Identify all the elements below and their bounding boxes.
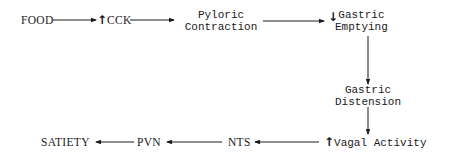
node-vagal-label: Vagal Activity: [334, 137, 426, 149]
node-gastric-distension: Gastric Distension: [335, 84, 401, 108]
node-gastric-emptying: ↓ Gastric Emptying: [328, 9, 388, 33]
node-cck-label: CCK: [107, 14, 132, 26]
node-pvn: PVN: [137, 136, 161, 148]
increase-arrow-icon: ↑: [324, 135, 334, 149]
node-emptying-line2: Emptying: [335, 21, 388, 33]
node-vagal-activity: ↑Vagal Activity: [324, 136, 426, 149]
node-nts: NTS: [228, 136, 251, 148]
node-pyloric-line1: Pyloric: [185, 9, 258, 21]
node-distension-line2: Distension: [335, 96, 401, 108]
node-cck: ↑CCK: [97, 14, 132, 27]
node-emptying-line1: Gastric: [335, 9, 388, 21]
node-food: FOOD: [21, 14, 54, 26]
increase-arrow-icon: ↑: [97, 13, 107, 27]
node-satiety: SATIETY: [41, 136, 90, 148]
node-pyloric-contraction: Pyloric Contraction: [185, 9, 258, 33]
node-distension-line1: Gastric: [335, 84, 401, 96]
decrease-arrow-icon: ↓: [328, 11, 338, 23]
node-pyloric-line2: Contraction: [185, 21, 258, 33]
